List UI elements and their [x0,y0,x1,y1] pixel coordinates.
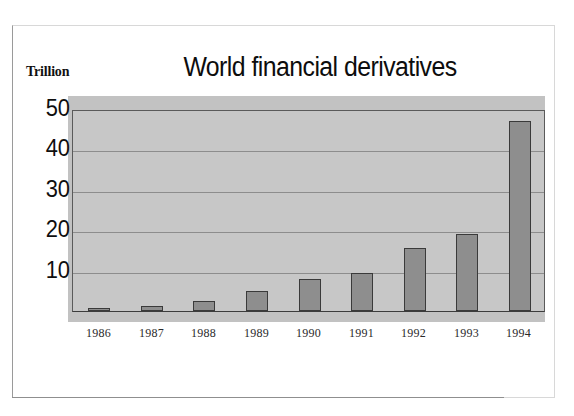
x-tick-label-1993: 1993 [440,326,493,341]
plot-inner [73,111,544,311]
bar-1994 [509,121,531,311]
y-axis-unit-label: Trillion [26,64,69,80]
plot-area [72,110,545,312]
x-tick-label-1994: 1994 [492,326,545,341]
x-tick-label-1990: 1990 [282,326,335,341]
chart-title: World financial derivatives [145,52,495,83]
bar-1990 [299,279,321,311]
gridline-20 [73,232,544,233]
gridline-30 [73,192,544,193]
bar-1993 [456,234,478,311]
bar-1987 [141,306,163,311]
x-tick-label-1987: 1987 [125,326,178,341]
x-tick-label-1988: 1988 [177,326,230,341]
bar-1992 [404,248,426,311]
y-tick-label-30: 30 [26,178,70,201]
y-tick-label-40: 40 [26,137,70,160]
x-tick-label-1986: 1986 [72,326,125,341]
bar-1988 [193,301,215,311]
y-axis-ticks: 1020304050 [14,110,70,312]
y-tick-label-50: 50 [26,97,70,120]
bar-1991 [351,273,373,311]
y-tick-label-20: 20 [26,218,70,241]
x-tick-label-1992: 1992 [387,326,440,341]
bar-1986 [88,308,110,311]
bar-1989 [246,291,268,311]
x-axis-ticks: 198619871988198919901991199219931994 [72,326,545,346]
gridline-40 [73,151,544,152]
y-tick-label-10: 10 [26,259,70,282]
x-tick-label-1991: 1991 [335,326,388,341]
bar-chart-figure: World financial derivatives Trillion 102… [0,0,574,416]
x-tick-label-1989: 1989 [230,326,283,341]
